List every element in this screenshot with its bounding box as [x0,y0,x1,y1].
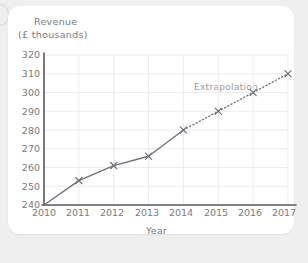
extrapolation-line [183,74,288,130]
chart-plot-area [0,0,308,263]
chart-page: Revenue (£ thousands) Year Extrapolation… [0,0,308,263]
